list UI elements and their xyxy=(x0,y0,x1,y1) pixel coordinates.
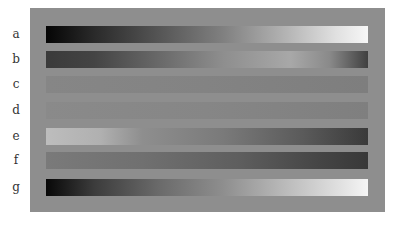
row-label-g: g xyxy=(9,180,23,194)
gradient-bar-f xyxy=(46,152,368,169)
row-label-e: e xyxy=(9,129,23,143)
gradient-bar-b xyxy=(46,51,368,68)
gradient-bar-c xyxy=(46,76,368,93)
gradient-bar-g xyxy=(46,179,368,196)
gradient-bar-e xyxy=(46,128,368,145)
row-label-c: c xyxy=(9,77,23,91)
gradient-bar-d xyxy=(46,102,368,119)
row-label-f: f xyxy=(9,153,23,167)
row-label-a: a xyxy=(9,27,23,41)
row-label-d: d xyxy=(9,103,23,117)
row-label-b: b xyxy=(9,52,23,66)
gradient-bar-a xyxy=(46,26,368,43)
